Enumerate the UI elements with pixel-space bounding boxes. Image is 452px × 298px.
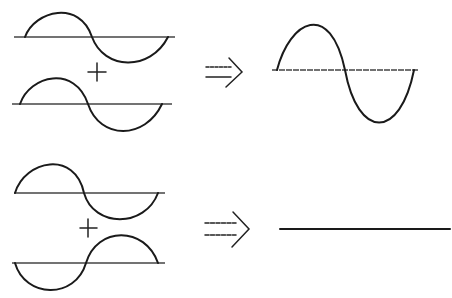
implies-arrow-icon [206,58,242,87]
sine-wave [15,164,158,219]
plus-icon [88,63,106,81]
input-wave-b-bottom [12,235,165,290]
destructive-row [12,164,450,290]
input-wave-a-bottom [14,164,165,219]
result-wave-top [272,25,419,123]
input-wave-a-top [14,13,175,63]
interference-diagram [0,0,452,298]
plus-icon [80,219,97,237]
input-wave-b-top [12,78,172,131]
sum-sine-wave [277,25,414,123]
constructive-row [12,13,419,131]
implies-arrow-icon [205,212,249,247]
